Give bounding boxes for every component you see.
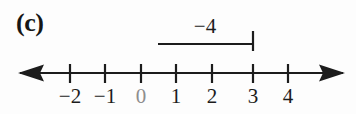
vector-magnitude-label: −4: [194, 16, 216, 37]
number-line-figure: (c) −2−101234 −4: [0, 0, 356, 114]
tick-label: 2: [207, 86, 218, 107]
tick-label: 1: [171, 86, 182, 107]
tick-label: 3: [248, 86, 259, 107]
tick-label: 4: [283, 86, 294, 107]
tick-label: 0: [136, 86, 147, 107]
tick-label: −2: [59, 86, 81, 107]
tick-label: −1: [94, 86, 116, 107]
